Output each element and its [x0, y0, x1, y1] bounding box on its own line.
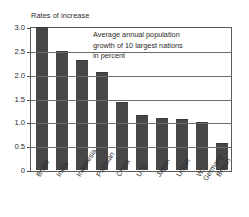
- y-axis: 00.51.01.52.02.53.0: [0, 27, 30, 173]
- y-tick-label: 2.0: [14, 72, 25, 80]
- gridline: [31, 123, 231, 124]
- gridline: [31, 100, 231, 101]
- chart-annotation: Average annual populationgrowth of 10 la…: [93, 30, 228, 62]
- y-tick-label: 0.5: [14, 143, 25, 151]
- bar-chart: Rates of increase 00.51.01.52.02.53.0 Av…: [0, 0, 249, 217]
- annotation-line: growth of 10 largest nations: [93, 41, 228, 52]
- gridline: [31, 147, 231, 148]
- annotation-line: Average annual population: [93, 30, 228, 41]
- gridline: [31, 76, 231, 77]
- y-tick-label: 3.0: [14, 24, 25, 32]
- y-tick-label: 1.5: [14, 96, 25, 104]
- bar: [36, 27, 48, 170]
- bar: [56, 51, 68, 170]
- x-axis-labels: BrazilIndiaIndonesiaPakistanChinaU.S.Jap…: [30, 172, 232, 217]
- y-tick-label: 0: [21, 167, 25, 175]
- annotation-line: in percent: [93, 51, 228, 62]
- chart-axis-title: Rates of increase: [31, 11, 89, 20]
- y-tick-label: 2.5: [14, 48, 25, 56]
- y-tick-label: 1.0: [14, 119, 25, 127]
